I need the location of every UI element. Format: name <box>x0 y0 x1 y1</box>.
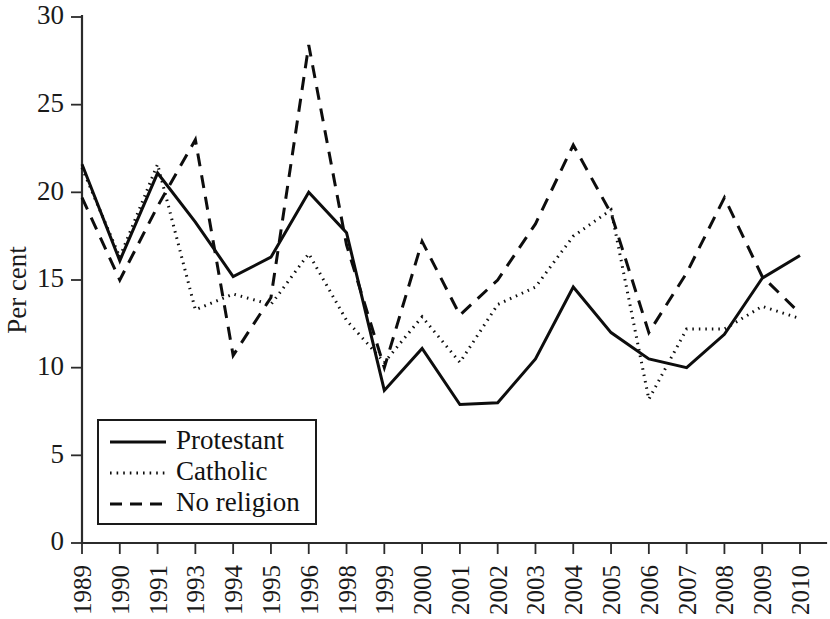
x-tick-label: 1998 <box>334 565 361 615</box>
x-tick-label: 1990 <box>107 565 134 615</box>
legend-label-dashed: No religion <box>176 487 300 517</box>
x-tick-label: 2007 <box>674 565 701 615</box>
y-axis-title: Per cent <box>2 246 32 334</box>
data-series-group <box>82 45 800 404</box>
line-chart: 051015202530 198919901991199319941995199… <box>0 0 830 619</box>
y-tick-label: 5 <box>51 439 65 469</box>
x-tick-label: 2010 <box>787 565 814 615</box>
y-axis: 051015202530 <box>37 0 82 556</box>
y-tick-label: 0 <box>51 526 65 556</box>
x-tick-label: 2009 <box>749 565 776 615</box>
chart-figure: 051015202530 198919901991199319941995199… <box>0 0 830 619</box>
x-tick-label: 1996 <box>296 565 323 615</box>
x-tick-label: 1991 <box>145 565 172 615</box>
x-tick-label: 1999 <box>371 565 398 615</box>
x-tick-label: 2005 <box>598 565 625 615</box>
x-tick-label: 1993 <box>182 565 209 615</box>
chart-legend: ProtestantCatholicNo religion <box>98 420 316 524</box>
x-tick-label: 2004 <box>560 565 587 616</box>
x-tick-label: 2008 <box>711 565 738 615</box>
legend-label-solid: Protestant <box>176 425 284 455</box>
x-tick-label: 2002 <box>485 565 512 615</box>
x-tick-label: 2000 <box>409 565 436 615</box>
x-axis: 1989199019911993199419951996199819992000… <box>69 543 826 615</box>
x-tick-label: 1989 <box>69 565 96 615</box>
x-tick-label: 2003 <box>522 565 549 615</box>
x-tick-label: 2001 <box>447 565 474 615</box>
x-tick-label: 1995 <box>258 565 285 615</box>
y-tick-label: 15 <box>37 263 64 293</box>
series-line-no-religion <box>82 45 800 368</box>
y-tick-label: 10 <box>37 351 64 381</box>
x-tick-label: 2006 <box>636 565 663 615</box>
y-tick-label: 30 <box>37 0 64 30</box>
legend-label-dotted: Catholic <box>176 456 267 486</box>
x-tick-label: 1994 <box>220 565 247 616</box>
series-line-protestant <box>82 164 800 404</box>
y-tick-label: 20 <box>37 176 64 206</box>
y-tick-label: 25 <box>37 88 64 118</box>
